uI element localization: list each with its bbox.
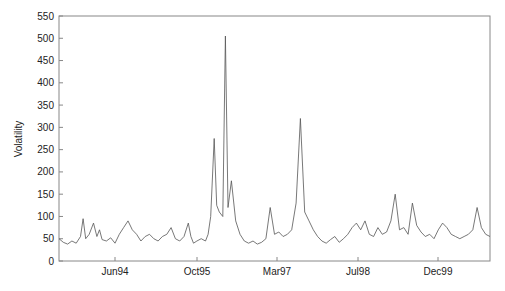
y-axis-title: Volatility (13, 121, 24, 158)
y-tick-label: 0 (48, 256, 54, 267)
x-tick-label: Jun94 (101, 266, 129, 277)
y-tick-label: 250 (37, 144, 54, 155)
x-axis-ticks: Jun94Oct95Mar97Jul98Dec99 (101, 257, 453, 277)
y-tick-label: 550 (37, 11, 54, 22)
y-tick-label: 50 (43, 233, 55, 244)
x-tick-label: Dec99 (424, 266, 453, 277)
y-tick-label: 400 (37, 77, 54, 88)
y-tick-label: 350 (37, 100, 54, 111)
y-tick-label: 200 (37, 166, 54, 177)
y-tick-label: 150 (37, 189, 54, 200)
x-tick-label: Oct95 (184, 266, 211, 277)
volatility-line-chart: 050100150200250300350400450500550 Jun94O… (0, 0, 505, 291)
y-tick-label: 450 (37, 55, 54, 66)
x-tick-label: Jul98 (346, 266, 370, 277)
plot-frame (59, 16, 490, 261)
y-tick-label: 100 (37, 211, 54, 222)
volatility-series-line (59, 36, 490, 244)
x-tick-label: Mar97 (263, 266, 292, 277)
y-tick-label: 300 (37, 122, 54, 133)
y-tick-label: 500 (37, 33, 54, 44)
